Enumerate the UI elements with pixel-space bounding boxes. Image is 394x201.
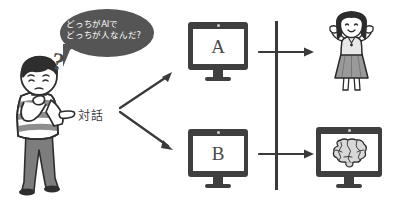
questioning-man-figure [4,54,76,199]
monitor-a-base [205,77,231,81]
monitor-b-base [205,184,231,188]
cheering-woman-figure [322,10,380,94]
monitor-a-screen: A [193,29,244,64]
monitor-b: B [188,129,248,177]
arrow-to-woman [258,44,316,56]
monitor-brain-screen [321,134,378,171]
dialogue-label: 対話 [78,106,103,123]
illustration-canvas: どっちがAIで どっちが人なんだ? ? [0,0,394,201]
monitor-a: A [188,22,248,70]
monitor-brain [316,127,382,177]
monitor-a-neck [213,70,223,77]
monitor-b-webcam-icon [217,131,220,134]
monitor-brain-webcam-icon [348,129,351,132]
monitor-brain-neck [344,177,354,184]
monitor-b-letter: B [193,143,244,165]
arrow-to-brain-monitor [258,146,316,158]
speech-bubble-text: どっちがAIで どっちが人なんだ? [66,19,150,41]
monitor-a-webcam-icon [217,24,220,27]
monitor-a-letter: A [193,36,244,58]
arrow-to-monitor-a [118,68,180,110]
monitor-b-neck [213,177,223,184]
monitor-b-screen: B [193,136,244,171]
monitor-brain-base [336,184,362,188]
brain-icon [330,138,369,172]
arrow-to-monitor-b [118,108,180,154]
